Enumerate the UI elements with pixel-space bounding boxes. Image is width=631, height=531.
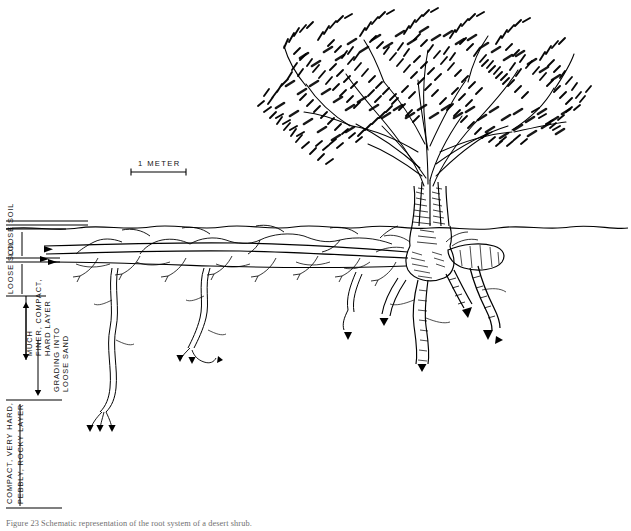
horizon-label-rocky-line1: COMPACT, VERY HARD, xyxy=(5,402,14,504)
horizon-label-grading-line2: LOOSE SAND xyxy=(61,335,70,392)
figure-caption: Figure 23 Schematic representation of th… xyxy=(6,519,626,529)
horizon-label-compact-hard-line2: FINER, COMPACT, xyxy=(34,279,43,356)
horizon-label-compact-hard-line1: MUCH xyxy=(25,330,34,356)
figure-root-system-diagram: 1 METER LOOSE SOIL LOOSE SOIL MUCH xyxy=(0,0,631,531)
diagram-canvas: 1 METER LOOSE SOIL LOOSE SOIL MUCH xyxy=(0,0,631,531)
horizon-label-grading-line1: GRADING INTO xyxy=(52,327,61,392)
canvas-background xyxy=(0,0,631,531)
horizon-label-rocky-line2: PEBBLY, ROCKY LAYER xyxy=(16,404,25,504)
horizon-label-compact-hard-line3: HARD LAYER xyxy=(43,300,52,356)
horizon-label-loose-soil-lower: LOOSE SOIL xyxy=(6,241,15,294)
scale-bar-label: 1 METER xyxy=(138,159,181,168)
